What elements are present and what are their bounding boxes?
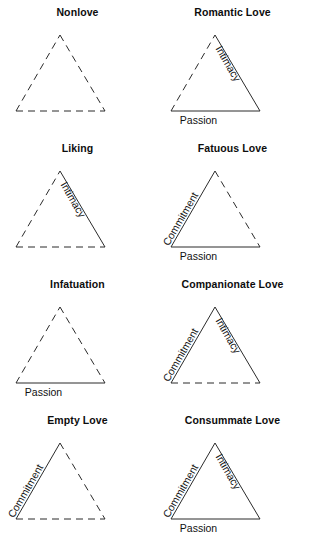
panel-title-companionate-love: Companionate Love — [155, 278, 310, 290]
panel-companionate-love: Companionate LoveCommitmentIntimacy — [155, 272, 310, 408]
edge-intimacy-empty-love — [60, 443, 105, 519]
triangle-consummate-love: CommitmentIntimacyPassion — [155, 426, 310, 544]
edge-commitment-liking — [16, 171, 60, 247]
edge-label-passion-romantic-love: Passion — [121, 114, 276, 126]
edge-intimacy-infatuation — [60, 307, 105, 383]
edge-intimacy-nonlove — [60, 35, 105, 111]
panel-title-fatuous-love: Fatuous Love — [155, 142, 310, 154]
panel-infatuation: InfatuationPassion — [0, 272, 155, 408]
panel-title-infatuation: Infatuation — [0, 278, 155, 290]
edge-commitment-romantic-love — [171, 35, 215, 111]
panel-title-nonlove: Nonlove — [0, 6, 155, 18]
triangular-theory-of-love-figure: NonloveRomantic LoveIntimacyPassionLikin… — [0, 0, 310, 545]
edge-commitment-nonlove — [16, 35, 60, 111]
panel-fatuous-love: Fatuous LoveCommitmentPassion — [155, 136, 310, 272]
edge-label-passion-consummate-love: Passion — [121, 522, 276, 534]
edge-label-passion-fatuous-love: Passion — [121, 250, 276, 262]
panel-title-empty-love: Empty Love — [0, 414, 155, 426]
panel-title-romantic-love: Romantic Love — [155, 6, 310, 18]
panel-consummate-love: Consummate LoveCommitmentIntimacyPassion — [155, 408, 310, 544]
triangle-romantic-love: IntimacyPassion — [155, 18, 310, 136]
edge-intimacy-fatuous-love — [215, 171, 260, 247]
panel-romantic-love: Romantic LoveIntimacyPassion — [155, 0, 310, 136]
triangle-fatuous-love: CommitmentPassion — [155, 154, 310, 272]
triangle-companionate-love: CommitmentIntimacy — [155, 290, 310, 408]
triangle-infatuation: Passion — [0, 290, 155, 408]
panel-title-consummate-love: Consummate Love — [155, 414, 310, 426]
panel-title-liking: Liking — [0, 142, 155, 154]
edge-label-passion-infatuation: Passion — [0, 386, 121, 398]
edge-commitment-infatuation — [16, 307, 60, 383]
